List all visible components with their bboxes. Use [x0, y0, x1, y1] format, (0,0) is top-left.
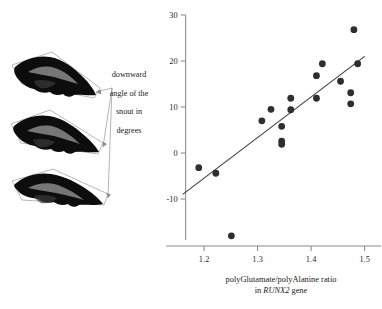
trendline: [183, 56, 365, 194]
x-tick-label: 1.4: [306, 255, 317, 264]
y-axis: 3020100-10: [166, 11, 185, 240]
annotation-line-4: degrees: [98, 122, 160, 141]
x-axis-title-line-2: in RUNX2 gene: [255, 286, 308, 295]
data-points-group: [195, 26, 361, 239]
data-point: [287, 106, 294, 113]
y-tick-label: -10: [166, 195, 177, 204]
data-point: [319, 60, 326, 67]
x-axis-title: polyGlutamate/polyAlanine ratio in RUNX2…: [226, 275, 337, 295]
annotation-line-3: snout in: [98, 103, 160, 122]
y-tick-group: 3020100-10: [166, 11, 185, 204]
data-point: [278, 123, 285, 130]
data-point: [278, 141, 285, 148]
data-point: [212, 170, 219, 177]
data-point: [268, 106, 275, 113]
y-tick-label: 20: [169, 57, 177, 66]
data-point: [347, 89, 354, 96]
data-point: [195, 164, 202, 171]
figure-container: downward angle of the snout in degrees 3…: [0, 0, 382, 309]
regression-line: [183, 56, 365, 194]
x-tick-label: 1.3: [252, 255, 262, 264]
annotation-line-2: angle of the: [98, 85, 160, 104]
data-point: [351, 26, 358, 33]
plot-svg: 3020100-10 1.21.31.41.5 polyGlutamate/po…: [160, 0, 382, 309]
data-point: [228, 232, 235, 239]
data-point: [287, 95, 294, 102]
x-tick-label: 1.2: [199, 255, 209, 264]
data-point: [347, 100, 354, 107]
annotation-line-1: downward: [98, 66, 160, 85]
x-axis-title-line-1: polyGlutamate/polyAlanine ratio: [226, 275, 337, 284]
data-point: [313, 72, 320, 79]
data-point: [258, 117, 265, 124]
scatter-plot: 3020100-10 1.21.31.41.5 polyGlutamate/po…: [160, 0, 382, 309]
y-tick-label: 0: [173, 149, 177, 158]
y-tick-label: 30: [169, 11, 177, 20]
x-tick-group: 1.21.31.41.5: [199, 246, 370, 264]
skull-silhouette-top: [12, 52, 100, 98]
data-point: [337, 78, 344, 85]
data-point: [354, 60, 361, 67]
y-tick-label: 10: [169, 103, 177, 112]
skull-silhouette-middle: [11, 110, 103, 154]
x-axis: 1.21.31.41.5: [166, 246, 381, 264]
x-tick-label: 1.5: [359, 255, 369, 264]
y-axis-annotation: downward angle of the snout in degrees: [98, 66, 160, 140]
data-point: [313, 95, 320, 102]
skull-silhouette-bottom: [12, 169, 108, 207]
